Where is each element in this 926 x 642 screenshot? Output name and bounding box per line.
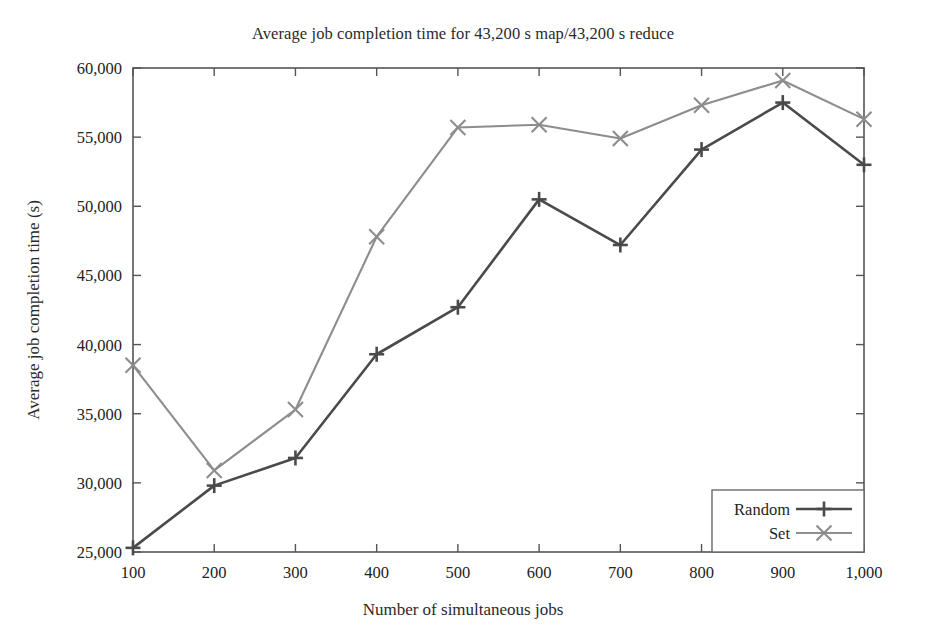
y-tick-label: 25,000 xyxy=(77,543,122,562)
x-tick-label: 500 xyxy=(446,563,471,582)
x-tick-label: 100 xyxy=(121,563,146,582)
y-tick-label: 60,000 xyxy=(77,59,122,78)
chart-figure: Average job completion time for 43,200 s… xyxy=(0,0,926,642)
x-tick-label: 900 xyxy=(770,563,795,582)
series-random xyxy=(126,95,872,555)
x-tick-label: 800 xyxy=(689,563,714,582)
x-tick-label: 1,000 xyxy=(845,563,882,582)
x-marker xyxy=(369,229,384,244)
legend-label: Set xyxy=(769,524,791,543)
y-tick-label: 30,000 xyxy=(77,474,122,493)
series-line xyxy=(133,80,864,470)
x-tick-label: 400 xyxy=(364,563,389,582)
x-marker xyxy=(288,402,303,417)
legend-label: Random xyxy=(734,500,790,519)
x-tick-label: 700 xyxy=(608,563,633,582)
axis-frame xyxy=(133,68,864,552)
y-tick-label: 50,000 xyxy=(77,197,122,216)
series-layer xyxy=(126,73,872,555)
x-marker xyxy=(694,98,709,113)
y-tick-group: 25,00030,00035,00040,00045,00050,00055,0… xyxy=(77,59,864,562)
series-set xyxy=(126,73,872,478)
x-tick-label: 300 xyxy=(283,563,308,582)
y-tick-label: 55,000 xyxy=(77,128,122,147)
x-tick-label: 600 xyxy=(527,563,552,582)
y-tick-label: 45,000 xyxy=(77,266,122,285)
y-tick-label: 40,000 xyxy=(77,336,122,355)
chart-legend: RandomSet xyxy=(712,490,864,552)
x-marker xyxy=(207,463,222,478)
x-tick-label: 200 xyxy=(202,563,227,582)
series-line xyxy=(133,103,864,548)
plot-area: 25,00030,00035,00040,00045,00050,00055,0… xyxy=(0,0,926,642)
y-tick-label: 35,000 xyxy=(77,405,122,424)
